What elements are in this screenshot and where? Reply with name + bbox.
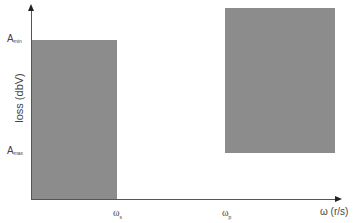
y-axis-label: loss (dbV) — [13, 63, 25, 133]
y-axis — [31, 10, 32, 200]
wp-main: ω — [222, 207, 229, 218]
amax-sub: max — [14, 150, 23, 156]
y-tick-amin: Amin — [7, 33, 22, 44]
x-axis-arrow-icon — [335, 196, 342, 202]
x-axis-label: ω (r/s) — [320, 206, 348, 217]
ws-sub: s — [120, 214, 123, 220]
x-tick-omega-s: ωs — [113, 207, 122, 220]
ws-main: ω — [113, 207, 120, 218]
amin-main: A — [7, 33, 14, 44]
passband-region — [225, 8, 335, 153]
x-axis — [31, 199, 336, 200]
amin-sub: min — [14, 38, 22, 44]
y-axis-arrow-icon — [28, 4, 34, 11]
stopband-region — [32, 40, 117, 199]
x-tick-omega-p: ωp — [222, 207, 231, 220]
y-tick-amax: Amax — [7, 145, 23, 156]
amax-main: A — [7, 145, 14, 156]
wp-sub: p — [229, 214, 232, 220]
